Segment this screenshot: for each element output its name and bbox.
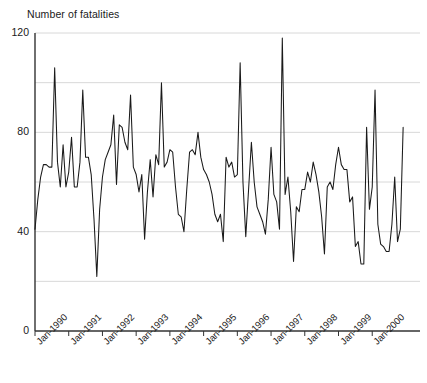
y-axis-tick-label: 80 (3, 125, 29, 137)
y-axis-tick-label: 0 (3, 324, 29, 336)
y-axis-tick-label: 40 (3, 225, 29, 237)
gridlines (35, 33, 420, 281)
data-series-line (35, 38, 403, 276)
chart-container: Number of fatalities 04080120 Jan-1990Ja… (0, 0, 427, 383)
y-axis-tick-label: 120 (3, 26, 29, 38)
